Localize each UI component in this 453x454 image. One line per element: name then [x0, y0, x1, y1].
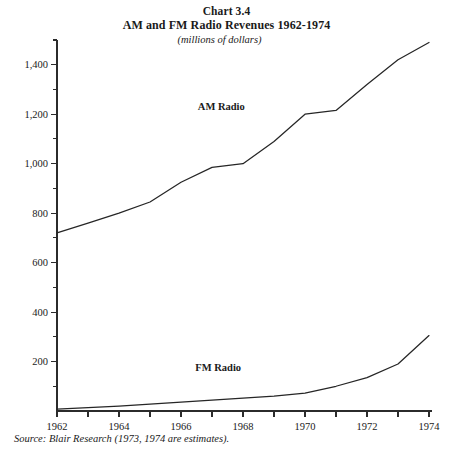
x-axis-tick-labels: 1962196419661968197019721974 — [47, 421, 441, 432]
series-line-fm-radio — [57, 336, 429, 409]
series-inline-labels: AM RadioFM Radio — [195, 101, 244, 373]
chart-plot-area: 2004006008001,0001,2001,400 196219641966… — [0, 0, 453, 454]
source-note: Source: Blair Research (1973, 1974 are e… — [14, 432, 229, 446]
y-tick-label: 1,400 — [24, 59, 48, 70]
y-tick-label: 1,000 — [24, 158, 48, 169]
y-axis-group: 2004006008001,0001,2001,400 — [24, 40, 57, 411]
y-tick-label: 600 — [32, 257, 48, 268]
data-series-group — [57, 42, 429, 409]
x-tick-label: 1962 — [47, 421, 68, 432]
chart-page: Chart 3.4 AM and FM Radio Revenues 1962-… — [0, 0, 453, 454]
x-tick-label: 1974 — [419, 421, 441, 432]
series-line-am-radio — [57, 42, 429, 232]
y-tick-label: 400 — [32, 307, 48, 318]
y-tick-label: 800 — [32, 208, 48, 219]
y-tick-label: 1,200 — [24, 109, 48, 120]
y-tick-label: 200 — [32, 356, 48, 367]
x-tick-label: 1966 — [171, 421, 192, 432]
x-tick-label: 1972 — [357, 421, 378, 432]
y-axis-tick-labels: 2004006008001,0001,2001,400 — [24, 59, 48, 367]
x-tick-label: 1968 — [233, 421, 254, 432]
x-axis-group: 1962196419661968197019721974 — [47, 411, 441, 432]
x-tick-label: 1964 — [109, 421, 131, 432]
series-label-fm-radio: FM Radio — [195, 362, 241, 373]
y-axis-major-ticks — [51, 65, 57, 362]
x-axis-ticks — [57, 411, 429, 417]
series-label-am-radio: AM Radio — [198, 101, 245, 112]
x-tick-label: 1970 — [295, 421, 316, 432]
